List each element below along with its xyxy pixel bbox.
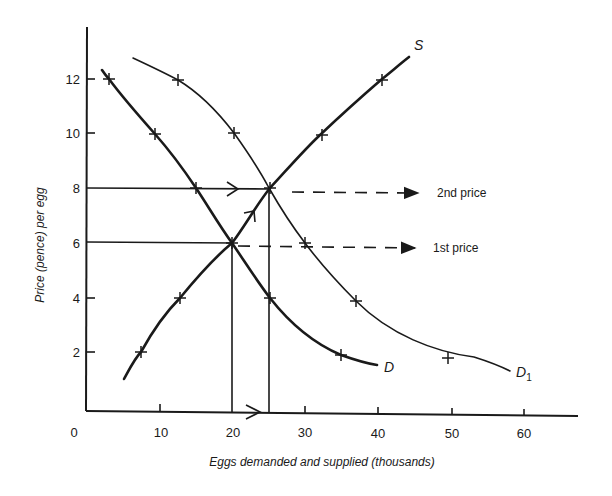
axes — [86, 27, 578, 416]
x-axis-title: Eggs demanded and supplied (thousands) — [209, 455, 435, 469]
x-tick-label: 30 — [298, 425, 312, 440]
price-6-line — [87, 242, 233, 243]
supply-curve — [124, 57, 409, 379]
y-tick-label: 10 — [66, 126, 80, 141]
y-tick-label: 4 — [73, 291, 80, 306]
x-tick-label: 50 — [445, 426, 459, 441]
demand-curve-d-label: D — [384, 359, 394, 375]
y-axis — [86, 27, 87, 411]
dashed-arrows — [238, 192, 418, 248]
x-tick-label: 20 — [226, 425, 240, 440]
x-tick-label: 0 — [70, 425, 77, 440]
curves — [102, 57, 510, 379]
supply-curve-label: S — [414, 37, 424, 53]
demand-curve-d — [102, 70, 377, 365]
first-price-label: 1st price — [433, 241, 479, 255]
demand-curve-d1 — [133, 58, 510, 371]
y-tick-label: 6 — [73, 236, 80, 251]
y-tick-labels: 12 10 8 6 4 2 — [66, 72, 80, 360]
x-tick-label: 10 — [154, 425, 168, 440]
y-tick-label: 12 — [66, 72, 80, 87]
x-tick-labels: 0 10 20 30 40 50 60 — [70, 425, 531, 441]
supply-markers — [135, 74, 388, 358]
y-tick-label: 8 — [73, 181, 80, 196]
demand-curve-d1-label: D1 — [516, 364, 532, 383]
x-tick-label: 40 — [371, 426, 385, 441]
demand-d1-markers — [172, 74, 454, 364]
d1-main: D — [516, 364, 526, 380]
second-price-label: 2nd price — [437, 186, 487, 200]
d1-subscript: 1 — [526, 372, 532, 383]
price-8-line — [87, 188, 270, 189]
y-tick-label: 2 — [73, 345, 80, 360]
y-ticks — [87, 79, 95, 352]
first-price-dashed-arrow — [238, 246, 415, 248]
y-axis-title: Price (pence) per egg — [33, 187, 47, 303]
second-price-dashed-arrow — [292, 192, 418, 193]
curve-markers — [103, 73, 454, 364]
supply-demand-chart: 12 10 8 6 4 2 0 10 20 30 40 50 60 Eggs d… — [0, 0, 612, 496]
x-tick-label: 60 — [517, 426, 531, 441]
